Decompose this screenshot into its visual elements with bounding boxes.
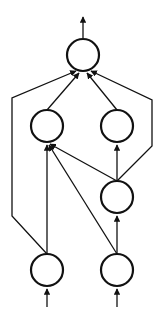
node-top — [67, 39, 99, 71]
nodes — [31, 39, 133, 286]
edge-mid-left-to-top — [47, 73, 79, 110]
node-bottom-left — [31, 254, 63, 286]
node-lower-right — [101, 181, 133, 213]
node-mid-right — [101, 110, 133, 142]
neural-network-diagram — [0, 0, 167, 320]
edge-bottom-left-to-top — [12, 71, 76, 254]
node-mid-left — [31, 110, 63, 142]
node-bottom-right — [101, 254, 133, 286]
edge-mid-right-to-top — [87, 73, 117, 110]
